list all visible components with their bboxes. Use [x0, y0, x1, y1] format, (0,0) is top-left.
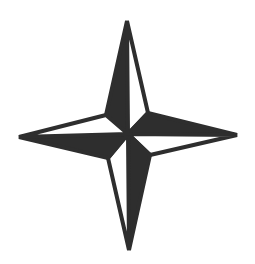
compass-star-icon [0, 0, 255, 264]
east-arm-dark [128, 113, 237, 135]
south-arm-dark [128, 134, 150, 250]
west-arm-light [19, 115, 128, 137]
compass-star-canvas [0, 0, 255, 264]
